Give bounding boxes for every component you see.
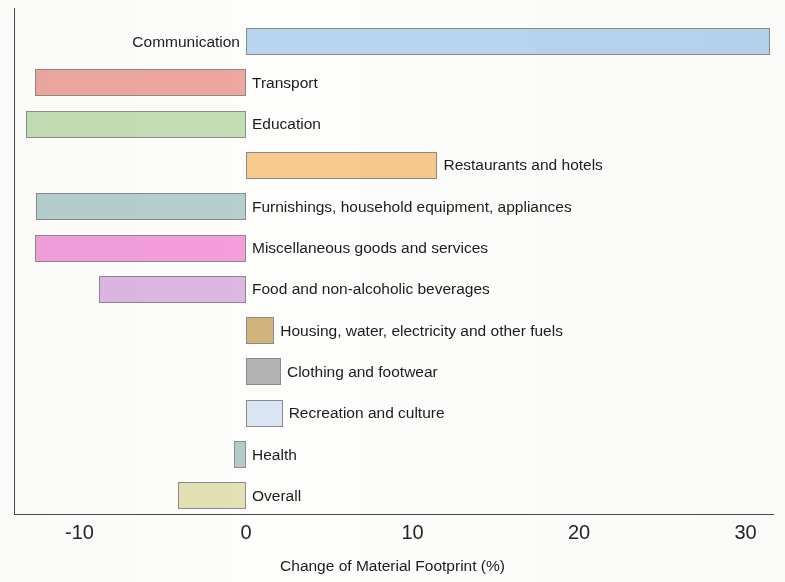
bar-label: Miscellaneous goods and services — [252, 240, 488, 256]
bar-label: Clothing and footwear — [287, 364, 438, 380]
bar[interactable] — [234, 441, 246, 468]
bar[interactable] — [246, 152, 437, 179]
bar[interactable] — [246, 358, 281, 385]
x-tick-label: 0 — [240, 522, 251, 542]
x-axis-spine — [14, 514, 774, 515]
x-tick-label: 30 — [734, 522, 756, 542]
bar-row: Furnishings, household equipment, applia… — [14, 193, 774, 220]
bar-row: Overall — [14, 482, 774, 509]
plot-area: CommunicationTransportEducationRestauran… — [14, 8, 774, 515]
bar-row: Recreation and culture — [14, 400, 774, 427]
bar-row: Miscellaneous goods and services — [14, 235, 774, 262]
bar-label: Housing, water, electricity and other fu… — [280, 323, 563, 339]
bar-label: Food and non-alcoholic beverages — [252, 281, 490, 297]
bar[interactable] — [246, 28, 770, 55]
bar-row: Restaurants and hotels — [14, 152, 774, 179]
x-tick-label: 10 — [401, 522, 423, 542]
bar-row: Communication — [14, 28, 774, 55]
bar[interactable] — [35, 235, 246, 262]
bar[interactable] — [246, 400, 283, 427]
bar-label: Overall — [252, 488, 301, 504]
bar[interactable] — [246, 317, 274, 344]
bar-label: Health — [252, 447, 297, 463]
bar[interactable] — [178, 482, 246, 509]
bar-label: Restaurants and hotels — [443, 157, 602, 173]
bar-row: Transport — [14, 69, 774, 96]
bar-row: Education — [14, 111, 774, 138]
bar[interactable] — [26, 111, 246, 138]
bar-label: Furnishings, household equipment, applia… — [252, 199, 572, 215]
bar-label: Communication — [14, 34, 240, 50]
bar-row: Clothing and footwear — [14, 358, 774, 385]
bar[interactable] — [35, 69, 246, 96]
bar-label: Education — [252, 116, 321, 132]
bar-row: Health — [14, 441, 774, 468]
x-tick-label: -10 — [65, 522, 94, 542]
bar[interactable] — [99, 276, 246, 303]
bar[interactable] — [36, 193, 246, 220]
bar-label: Transport — [252, 75, 318, 91]
x-tick-label: 20 — [568, 522, 590, 542]
bar-row: Food and non-alcoholic beverages — [14, 276, 774, 303]
bar-label: Recreation and culture — [289, 405, 445, 421]
x-axis-title: Change of Material Footprint (%) — [0, 558, 785, 574]
bar-row: Housing, water, electricity and other fu… — [14, 317, 774, 344]
material-footprint-bar-chart: CommunicationTransportEducationRestauran… — [0, 0, 785, 582]
